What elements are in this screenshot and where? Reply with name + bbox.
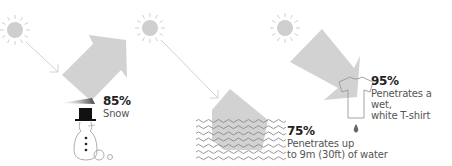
panel-shirt (270, 13, 373, 133)
sun-disc (7, 22, 23, 38)
wave-line (196, 157, 286, 160)
sun-ray (137, 34, 141, 36)
water-description-line-1: Penetrates up (287, 138, 388, 149)
snow-description: Snow (103, 108, 131, 119)
snow-label: 85% Snow (103, 95, 131, 119)
panel-snow (0, 15, 127, 160)
panel-water (135, 13, 286, 160)
shirt-description-line-2: white T-shirt (371, 110, 452, 121)
sun-ray (278, 15, 280, 19)
sun-ray (2, 23, 6, 25)
sun-ray (291, 38, 293, 42)
water-percent: 75% (287, 125, 388, 138)
sun-ray (25, 23, 29, 25)
incoming-ray (26, 42, 58, 72)
sun-icon (270, 13, 300, 43)
sun-disc (277, 20, 293, 36)
sun-ray (295, 34, 299, 36)
sun-ray (278, 38, 280, 42)
sun-ray (143, 15, 145, 19)
sun-ray (21, 40, 23, 44)
sun-ray (156, 15, 158, 19)
sun-icon (135, 13, 165, 43)
sun-ray (272, 34, 276, 36)
sun-ray (8, 40, 10, 44)
beam-arrow (290, 29, 360, 100)
water-description-line-2: to 9m (30ft) of water (287, 149, 388, 160)
water-label: 75% Penetrates up to 9m (30ft) of water (287, 125, 388, 160)
incoming-ray (161, 40, 218, 98)
sun-icon (0, 15, 30, 45)
reflected-beam-arrow (62, 35, 127, 101)
wave-line (196, 151, 286, 154)
sun-ray (21, 17, 23, 21)
sun-disc (142, 20, 158, 36)
sun-ray (272, 21, 276, 23)
snow-percent: 85% (103, 95, 131, 108)
sun-ray (160, 34, 164, 36)
shirt-description-line-1: Penetrates a wet, (371, 88, 452, 110)
shirt-percent: 95% (371, 75, 452, 88)
sun-ray (160, 21, 164, 23)
sun-ray (25, 36, 29, 38)
sun-ray (291, 15, 293, 19)
sun-ray (143, 38, 145, 42)
sun-ray (156, 38, 158, 42)
sun-ray (137, 21, 141, 23)
sun-ray (8, 17, 10, 21)
beam-shadow (60, 98, 95, 104)
sun-ray (295, 21, 299, 23)
sun-ray (2, 36, 6, 38)
shirt-label: 95% Penetrates a wet, white T-shirt (371, 75, 452, 121)
